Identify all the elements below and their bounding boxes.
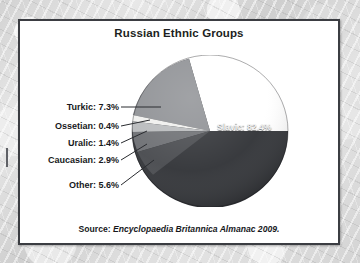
pie-label-turkic: Turkic: 7.3%: [24, 102, 119, 112]
pie-label-uralic: Uralic: 1.4%: [24, 138, 119, 148]
source-label: Source:: [79, 224, 111, 234]
source-citation: Encyclopaedia Britannica Almanac 2009.: [113, 224, 279, 234]
pie-label-ossetian: Ossetian: 0.4%: [24, 121, 119, 131]
scan-edge-artifact: [6, 148, 8, 167]
pie-label-caucasian: Caucasian: 2.9%: [24, 155, 119, 165]
pie-label-slavic: Slavic: 82.4%: [217, 122, 271, 132]
pie-chart: Slavic: 82.4%: [131, 55, 289, 207]
source-line: Source: Encyclopaedia Britannica Almanac…: [20, 224, 338, 234]
pie-label-other: Other: 5.6%: [24, 180, 119, 190]
chart-title: Russian Ethnic Groups: [20, 27, 338, 39]
chart-panel: Russian Ethnic Groups: [18, 19, 340, 245]
